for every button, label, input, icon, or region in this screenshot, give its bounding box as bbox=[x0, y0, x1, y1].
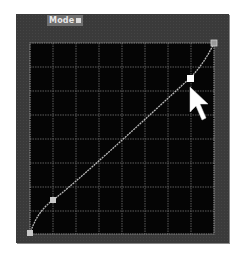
black-point-handle[interactable] bbox=[27, 230, 33, 236]
highlight-point-handle[interactable] bbox=[187, 75, 194, 82]
white-point-handle[interactable] bbox=[211, 40, 217, 46]
curves-graph[interactable] bbox=[0, 0, 236, 264]
shadow-point-handle[interactable] bbox=[50, 197, 56, 203]
